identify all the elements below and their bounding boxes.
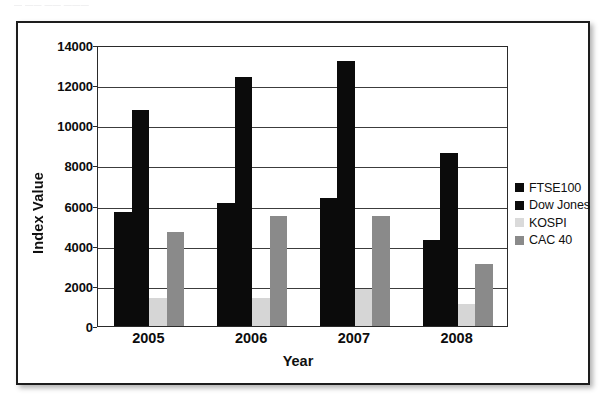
bar-dow-jones-2008[interactable] (440, 153, 458, 326)
bar-cac-40-2007[interactable] (372, 216, 390, 326)
legend-swatch-icon (515, 183, 524, 192)
bar-group-2008 (423, 47, 493, 326)
bar-group-2005 (114, 47, 184, 326)
x-axis-tick-label-2005: 2005 (132, 330, 164, 346)
bar-cac-40-2008[interactable] (475, 264, 493, 326)
legend-item-dow-jones[interactable]: Dow Jones (515, 197, 595, 215)
bar-ftse100-2005[interactable] (114, 212, 132, 326)
bar-cac-40-2005[interactable] (167, 232, 185, 326)
y-axis-tick-labels: 02000400060008000100001200014000 (35, 46, 93, 327)
bars-layer (98, 47, 507, 326)
x-axis-tick-label-2007: 2007 (338, 330, 370, 346)
bar-chart: Index Value 0200040006000800010000120001… (18, 23, 588, 383)
bar-ftse100-2007[interactable] (320, 198, 338, 326)
bar-ftse100-2006[interactable] (217, 203, 235, 326)
y-axis-tick-label: 10000 (41, 119, 93, 134)
legend-label: KOSPI (529, 216, 567, 230)
bar-kospi-2005[interactable] (149, 298, 167, 326)
scan-top-caption: — —— —— ——— (14, 0, 214, 9)
bar-dow-jones-2006[interactable] (235, 77, 253, 326)
legend-item-ftse100[interactable]: FTSE100 (515, 179, 595, 197)
legend-swatch-icon (515, 236, 524, 245)
legend-swatch-icon (515, 201, 524, 210)
legend-swatch-icon (515, 218, 524, 227)
y-axis-tick-mark (93, 327, 97, 328)
x-axis-title: Year (98, 353, 498, 369)
bar-dow-jones-2005[interactable] (132, 110, 150, 326)
legend-label: FTSE100 (529, 181, 581, 195)
bar-kospi-2007[interactable] (355, 289, 373, 326)
x-axis-tick-label-2006: 2006 (235, 330, 267, 346)
figure-frame: Index Value 0200040006000800010000120001… (16, 21, 590, 385)
legend-item-kospi[interactable]: KOSPI (515, 214, 595, 232)
y-axis-tick-label: 12000 (41, 79, 93, 94)
bar-dow-jones-2007[interactable] (337, 61, 355, 326)
y-axis-tick-label: 8000 (41, 159, 93, 174)
bar-group-2007 (320, 47, 390, 326)
bar-group-2006 (217, 47, 287, 326)
legend: FTSE100Dow JonesKOSPICAC 40 (515, 179, 595, 249)
legend-item-cac-40[interactable]: CAC 40 (515, 232, 595, 250)
bar-ftse100-2008[interactable] (423, 240, 441, 326)
bar-cac-40-2006[interactable] (270, 216, 288, 326)
legend-label: CAC 40 (529, 233, 572, 247)
y-axis-tick-label: 14000 (41, 39, 93, 54)
bar-kospi-2008[interactable] (458, 304, 476, 326)
y-axis-tick-label: 2000 (41, 279, 93, 294)
y-axis-tick-label: 4000 (41, 239, 93, 254)
plot-area (97, 46, 508, 327)
y-axis-tick-label: 0 (41, 320, 93, 335)
legend-label: Dow Jones (529, 198, 590, 212)
y-axis-tick-label: 6000 (41, 199, 93, 214)
bar-kospi-2006[interactable] (252, 298, 270, 326)
x-axis-tick-labels: 2005200620072008 (97, 330, 508, 354)
x-axis-tick-label-2008: 2008 (440, 330, 472, 346)
